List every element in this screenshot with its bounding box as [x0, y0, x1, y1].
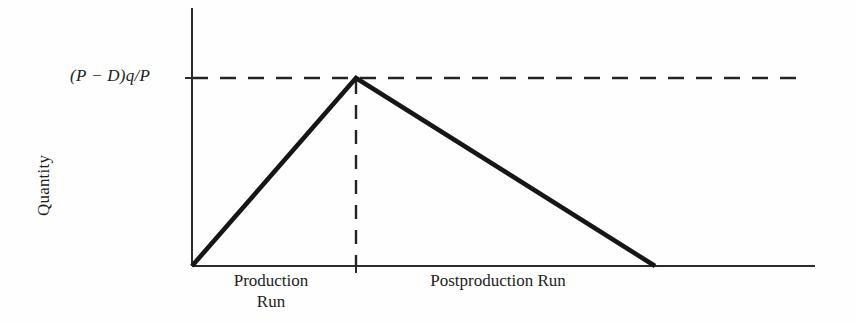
region-label-production-run-line1: Production — [234, 271, 309, 290]
region-label-postproduction-run: Postproduction Run — [390, 270, 606, 291]
region-label-production-run-line2: Run — [257, 292, 285, 311]
chart-figure: Quantity (P − D)q/P Production Run Postp… — [0, 0, 855, 323]
y-axis-title: Quantity — [34, 155, 54, 216]
inventory-curve — [192, 78, 655, 266]
region-label-production-run: Production Run — [213, 270, 329, 313]
y-axis-tick-label: (P − D)q/P — [70, 66, 150, 86]
region-label-postproduction-run-line1: Postproduction Run — [430, 271, 566, 290]
